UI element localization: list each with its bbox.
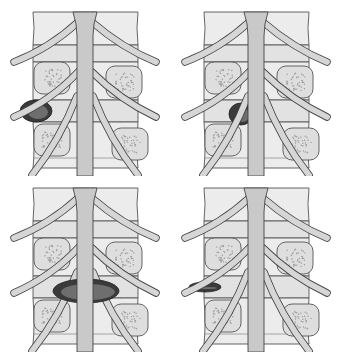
figure-grid — [0, 0, 342, 352]
panel-foraminal-herniation — [0, 0, 171, 176]
cauda-equina — [73, 188, 97, 352]
cauda-equina — [244, 188, 268, 352]
panel-central-herniation — [0, 176, 171, 352]
cauda-equina — [73, 12, 97, 176]
panel-extraforaminal-herniation — [171, 176, 342, 352]
panel-posterolateral-herniation — [171, 0, 342, 176]
cauda-equina — [244, 12, 268, 176]
